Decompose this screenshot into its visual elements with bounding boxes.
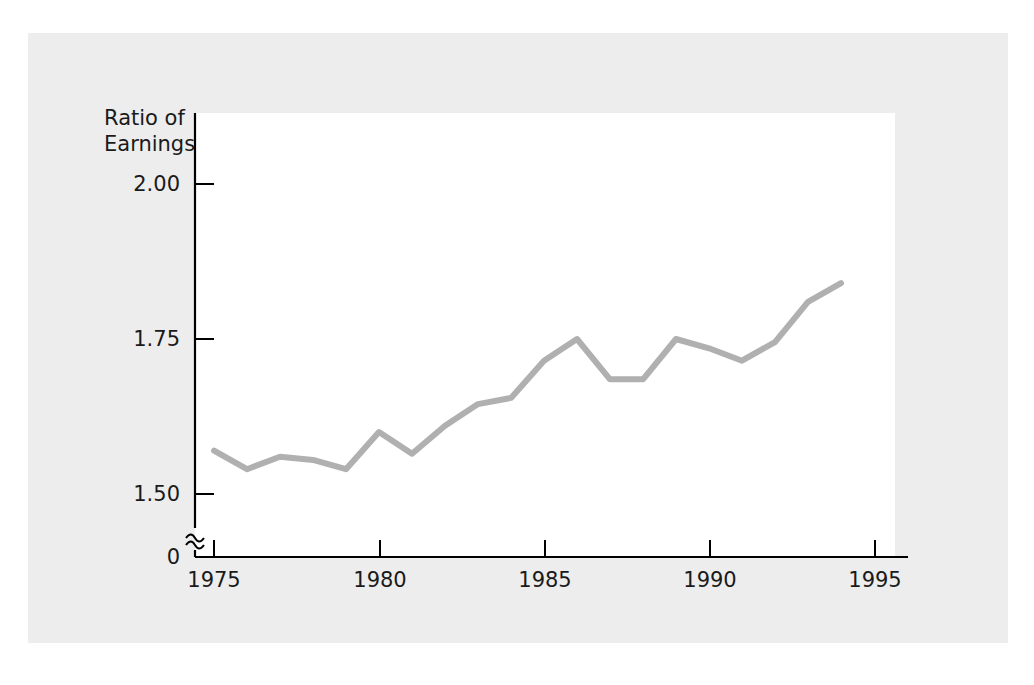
y-axis-break-icon-2 — [186, 542, 204, 549]
y-tick-label-0: 0 — [70, 545, 180, 569]
y-axis-title: Ratio of Earnings — [104, 105, 195, 157]
chart-figure: Ratio of Earnings 2.00 1.75 1.50 0 1975 … — [28, 33, 1008, 643]
x-tick-label-1995: 1995 — [825, 568, 925, 592]
data-line-ratio-of-earnings — [214, 283, 841, 469]
x-tick-label-1975: 1975 — [164, 568, 264, 592]
axes-group — [186, 113, 908, 557]
y-tick-label-1.50: 1.50 — [70, 482, 180, 506]
data-series-group — [214, 283, 841, 469]
y-axis-title-line-2: Earnings — [104, 131, 195, 157]
x-tick-label-1985: 1985 — [495, 568, 595, 592]
x-tick-label-1980: 1980 — [330, 568, 430, 592]
y-axis-break-icon — [186, 535, 204, 542]
y-tick-label-2.00: 2.00 — [70, 172, 180, 196]
y-axis-title-line-1: Ratio of — [104, 105, 195, 131]
x-tick-label-1990: 1990 — [660, 568, 760, 592]
y-tick-label-1.75: 1.75 — [70, 327, 180, 351]
